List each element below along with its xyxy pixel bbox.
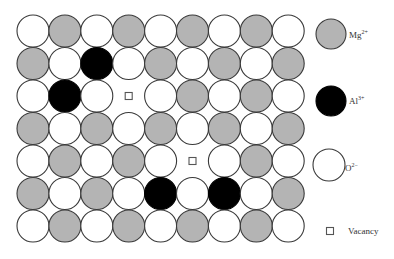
lattice-site-mg-ion	[240, 210, 272, 242]
legend-charge: 3+	[358, 95, 364, 101]
lattice-site-mg-ion	[240, 80, 272, 112]
lattice-site-o-ion	[177, 113, 209, 145]
lattice-site-mg-ion	[49, 210, 81, 242]
lattice-site-o-ion	[208, 15, 240, 47]
lattice-site-o-ion	[17, 80, 49, 112]
lattice-site-o-ion	[208, 80, 240, 112]
lattice-site-mg-ion	[177, 15, 209, 47]
legend-symbol: Mg	[349, 30, 362, 40]
lattice-site-o-ion	[49, 48, 81, 80]
lattice-site-mg-ion	[208, 48, 240, 80]
lattice-site-o-ion	[113, 48, 145, 80]
lattice-site-mg-ion	[272, 178, 304, 210]
lattice-site-o-ion	[240, 113, 272, 145]
lattice-site-mg-ion	[145, 48, 177, 80]
lattice-site-o-ion	[272, 145, 304, 177]
lattice-site-o-ion	[81, 145, 113, 177]
lattice-site-mg-ion	[113, 210, 145, 242]
legend-label-o-ion: O2−	[345, 163, 358, 173]
legend-label-vacancy: Vacancy	[348, 226, 378, 236]
lattice-site-o-ion	[272, 15, 304, 47]
legend-symbol: Vacancy	[348, 226, 378, 236]
lattice-site-o-ion	[145, 210, 177, 242]
lattice-site-mg-ion	[240, 15, 272, 47]
lattice-site-mg-ion	[17, 48, 49, 80]
legend	[313, 19, 346, 235]
lattice-site-o-ion	[81, 15, 113, 47]
lattice-site-mg-ion	[272, 48, 304, 80]
legend-charge: 2−	[352, 162, 358, 168]
lattice-site-mg-ion	[177, 210, 209, 242]
lattice-site-o-ion	[17, 210, 49, 242]
lattice-site-mg-ion	[208, 113, 240, 145]
lattice-site-mg-ion	[113, 145, 145, 177]
lattice-site-vacancy	[189, 158, 196, 165]
lattice-site-o-ion	[49, 113, 81, 145]
lattice-site-o-ion	[49, 178, 81, 210]
lattice-site-mg-ion	[113, 15, 145, 47]
lattice-site-vacancy	[125, 93, 132, 100]
lattice-site-o-ion	[113, 113, 145, 145]
lattice-site-mg-ion	[177, 80, 209, 112]
lattice-site-mg-ion	[17, 113, 49, 145]
lattice-site-o-ion	[113, 178, 145, 210]
lattice-site-mg-ion	[49, 145, 81, 177]
lattice-site-o-ion	[177, 48, 209, 80]
lattice-site-al-ion	[208, 178, 240, 210]
legend-swatch-al-ion	[316, 86, 346, 116]
lattice-site-mg-ion	[81, 113, 113, 145]
lattice-site-o-ion	[145, 15, 177, 47]
lattice-grid	[17, 15, 304, 242]
legend-label-mg-ion: Mg2+	[349, 30, 368, 40]
lattice-site-o-ion	[145, 80, 177, 112]
lattice-site-o-ion	[208, 210, 240, 242]
legend-symbol: Al	[349, 96, 358, 106]
lattice-site-o-ion	[17, 15, 49, 47]
lattice-site-mg-ion	[240, 145, 272, 177]
lattice-site-o-ion	[81, 210, 113, 242]
lattice-site-al-ion	[145, 178, 177, 210]
lattice-site-o-ion	[208, 145, 240, 177]
lattice-site-o-ion	[177, 178, 209, 210]
lattice-site-mg-ion	[81, 178, 113, 210]
lattice-site-al-ion	[49, 80, 81, 112]
lattice-site-o-ion	[272, 80, 304, 112]
legend-label-al-ion: Al3+	[349, 96, 364, 106]
lattice-site-o-ion	[17, 145, 49, 177]
lattice-site-mg-ion	[272, 113, 304, 145]
lattice-site-mg-ion	[145, 113, 177, 145]
legend-swatch-o-ion	[313, 149, 345, 181]
lattice-site-mg-ion	[17, 178, 49, 210]
legend-swatch-mg-ion	[316, 19, 346, 49]
lattice-site-o-ion	[240, 48, 272, 80]
legend-swatch-vacancy	[327, 228, 334, 235]
lattice-site-o-ion	[240, 178, 272, 210]
lattice-site-o-ion	[272, 210, 304, 242]
mgo-lattice-diagram	[0, 0, 394, 259]
lattice-site-o-ion	[145, 145, 177, 177]
legend-charge: 2+	[362, 29, 368, 35]
lattice-site-al-ion	[81, 48, 113, 80]
lattice-site-mg-ion	[49, 15, 81, 47]
lattice-site-o-ion	[81, 80, 113, 112]
